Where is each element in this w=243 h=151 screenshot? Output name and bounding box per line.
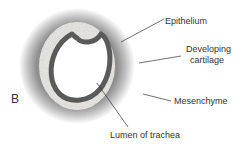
- label-cartilage-2: cartilage: [190, 55, 224, 65]
- panel-label: B: [11, 92, 19, 106]
- label-epithelium: Epithelium: [165, 16, 207, 26]
- epithelium-ring: [51, 34, 110, 100]
- label-cartilage-1: Developing: [186, 44, 231, 54]
- label-mesenchyme: Mesenchyme: [174, 96, 228, 106]
- label-lumen: Lumen of trachea: [110, 130, 180, 140]
